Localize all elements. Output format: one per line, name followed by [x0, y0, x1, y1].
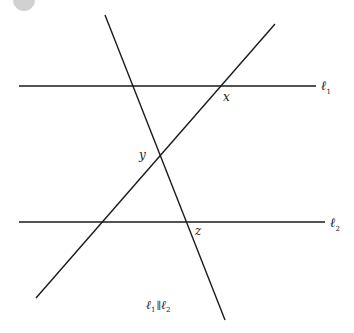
angle-label-x: x [223, 90, 230, 104]
rising-transversal [36, 24, 275, 298]
angle-label-z: z [194, 224, 202, 238]
corner-marker [13, 0, 35, 11]
label-l2: ℓ2 [330, 215, 340, 233]
label-l1: ℓ1 [321, 78, 331, 96]
geometry-diagram: ℓ1 ℓ2 x y z ℓ1∥ℓ2 [0, 0, 354, 333]
steep-transversal [105, 15, 225, 320]
parallel-caption: ℓ1∥ℓ2 [146, 298, 171, 314]
angle-label-y: y [138, 148, 146, 162]
